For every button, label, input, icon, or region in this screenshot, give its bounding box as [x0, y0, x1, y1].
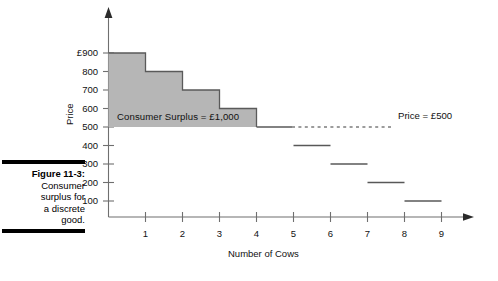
x-tick-label-5: 5 — [286, 228, 302, 239]
y-tick-label-800: 800 — [64, 66, 98, 77]
x-tick-label-8: 8 — [397, 228, 413, 239]
figure-11-3: Figure 11-3: Consumer surplus for a disc… — [0, 0, 498, 281]
y-axis-title: Price — [64, 103, 75, 125]
y-tick-label-200: 200 — [64, 177, 98, 188]
y-tick-label-900: £900 — [64, 47, 98, 58]
y-tick-label-400: 400 — [64, 140, 98, 151]
x-tick-label-4: 4 — [249, 228, 265, 239]
x-tick-label-9: 9 — [434, 228, 450, 239]
x-tick-label-3: 3 — [212, 228, 228, 239]
x-tick-label-2: 2 — [175, 228, 191, 239]
chart-plot-area: £900 800 700 600 500 400 300 200 100 1 2… — [0, 0, 498, 281]
y-tick-label-100: 100 — [64, 195, 98, 206]
x-tick-label-1: 1 — [138, 228, 154, 239]
x-axis-arrow — [463, 213, 474, 221]
y-tick-label-700: 700 — [64, 84, 98, 95]
x-tick-label-7: 7 — [360, 228, 376, 239]
x-tick-label-6: 6 — [323, 228, 339, 239]
y-tick-label-300: 300 — [64, 158, 98, 169]
y-axis-arrow — [105, 7, 113, 18]
price-line-annotation: Price = £500 — [398, 110, 452, 121]
x-axis-title: Number of Cows — [228, 248, 299, 259]
consumer-surplus-annotation: Consumer Surplus = £1,000 — [117, 111, 239, 122]
